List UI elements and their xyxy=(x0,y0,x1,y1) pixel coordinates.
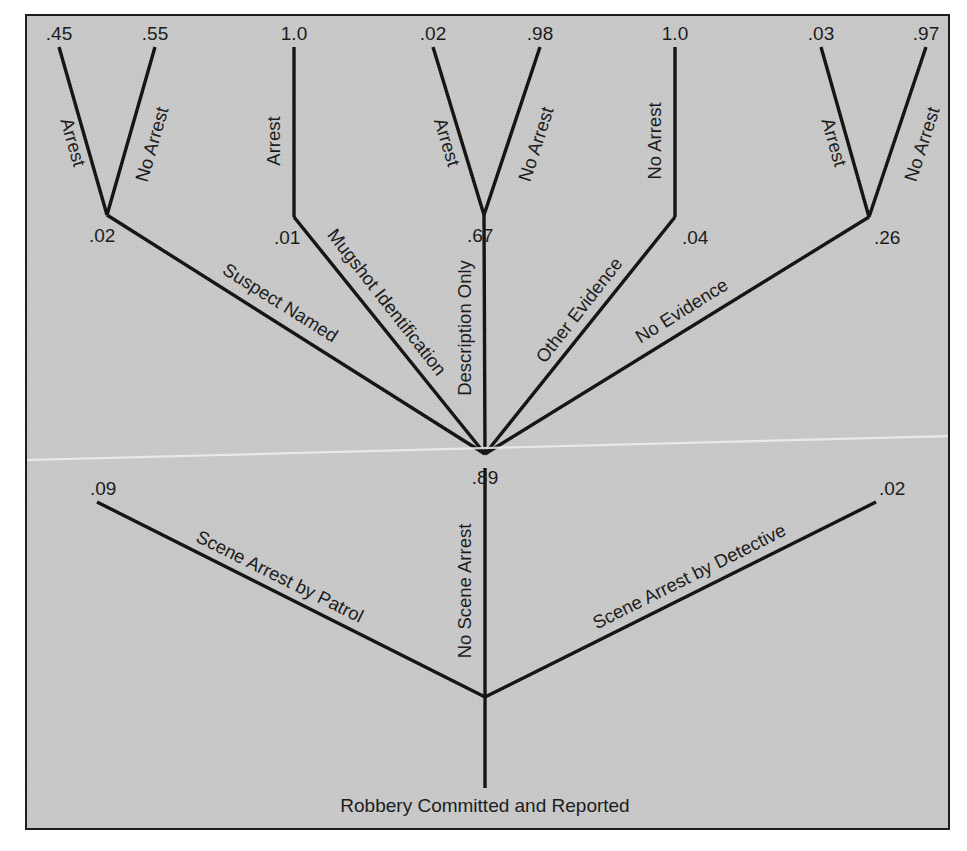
node-value-other-evidence: .04 xyxy=(682,227,709,248)
leaf-value-arrest-description: .02 xyxy=(420,23,446,44)
branch-label-arrest-no-evidence: Arrest xyxy=(817,116,851,169)
branch-line-description-only xyxy=(484,215,485,454)
branch-label-scene-arrest-detective: Scene Arrest by Detective xyxy=(589,519,789,633)
leaf-value-scene-arrest-detective: .02 xyxy=(879,478,905,499)
branch-label-suspect-named: Suspect Named xyxy=(219,259,342,347)
branch-label-mugshot-identification: Mugshot Identification xyxy=(323,225,450,380)
node-value-no-evidence: .26 xyxy=(874,227,900,248)
figure-frame: .45 .55 1.0 .02 .98 1.0 .03 .97 Arrest N… xyxy=(25,14,950,830)
node-value-suspect-named: .02 xyxy=(89,225,115,246)
branch-label-scene-arrest-patrol: Scene Arrest by Patrol xyxy=(193,526,367,627)
figure-root: .45 .55 1.0 .02 .98 1.0 .03 .97 Arrest N… xyxy=(0,0,967,851)
branch-label-no-arrest-description: No Arrest xyxy=(514,104,558,184)
branch-label-arrest-mugshot: Arrest xyxy=(263,116,284,165)
node-value-mugshot-identification: .01 xyxy=(274,227,300,248)
branch-label-no-arrest-other-evidence: No Arrest xyxy=(644,102,665,179)
branch-line-scene-arrest-detective xyxy=(485,502,876,697)
branch-label-no-scene-arrest: No Scene Arrest xyxy=(454,524,475,659)
branch-label-no-arrest-suspect-named: No Arrest xyxy=(131,104,172,184)
root-label: Robbery Committed and Reported xyxy=(340,795,629,816)
node-value-no-scene-arrest: .89 xyxy=(472,467,498,488)
branch-label-arrest-suspect-named: Arrest xyxy=(56,116,90,169)
leaf-value-no-arrest-other-evidence: 1.0 xyxy=(662,23,688,44)
leaf-value-arrest-mugshot: 1.0 xyxy=(281,23,307,44)
branch-line-no-evidence xyxy=(485,217,869,454)
branch-line-suspect-named xyxy=(107,215,485,454)
branch-label-other-evidence: Other Evidence xyxy=(531,253,626,366)
tree-diagram-svg: .45 .55 1.0 .02 .98 1.0 .03 .97 Arrest N… xyxy=(27,16,950,830)
branch-line-scene-arrest-patrol xyxy=(97,502,485,697)
node-value-description-only: .67 xyxy=(467,225,493,246)
branch-label-description-only: Description Only xyxy=(454,259,475,395)
branch-label-no-arrest-no-evidence: No Arrest xyxy=(900,104,944,184)
leaf-value-no-arrest-suspect-named: .55 xyxy=(142,23,168,44)
leaf-value-arrest-no-evidence: .03 xyxy=(808,23,834,44)
leaf-value-no-arrest-description: .98 xyxy=(527,23,553,44)
leaf-value-no-arrest-no-evidence: .97 xyxy=(913,23,939,44)
leaf-value-arrest-suspect-named: .45 xyxy=(46,23,72,44)
scan-artifact-line xyxy=(27,436,950,460)
leaf-value-scene-arrest-patrol: .09 xyxy=(90,478,116,499)
branch-label-arrest-description: Arrest xyxy=(430,115,465,168)
